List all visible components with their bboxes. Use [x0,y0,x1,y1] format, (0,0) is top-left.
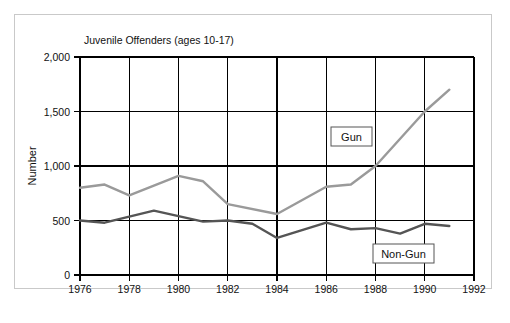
y-tick-label-1500: 1,500 [44,106,70,118]
x-tick-label-1990: 1990 [413,283,437,295]
x-tick-label-1982: 1982 [216,283,240,295]
line-chart: Juvenile Offenders (ages 10-17) Number [0,0,510,323]
x-tick-label-1980: 1980 [167,283,191,295]
y-tick-label-2000: 2,000 [44,51,70,63]
y-tick-label-500: 500 [52,215,70,227]
x-tick-label-1992: 1992 [462,283,486,295]
x-tick-label-1976: 1976 [68,283,92,295]
legend-gun[interactable]: Gun [331,127,372,146]
figure-root: Juvenile Offenders (ages 10-17) Number [0,0,510,323]
y-tick-label-1000: 1,000 [44,160,70,172]
x-tick-label-1986: 1986 [315,283,339,295]
y-tick-marks [74,57,80,275]
legend-non-gun-label: Non-Gun [381,248,426,260]
chart-title: Juvenile Offenders (ages 10-17) [84,34,234,46]
x-tick-label-1984: 1984 [265,283,289,295]
y-tick-label-0: 0 [64,269,70,281]
x-tick-label-1988: 1988 [364,283,388,295]
y-axis-title: Number [26,146,38,185]
legend-non-gun[interactable]: Non-Gun [373,244,434,263]
y-tick-labels: 2,000 1,500 1,000 500 0 [44,51,70,281]
x-tick-marks [80,275,474,281]
legend-gun-label: Gun [341,131,362,143]
x-tick-labels: 1976 1978 1980 1982 1984 1986 1988 1990 … [68,283,486,295]
x-tick-label-1978: 1978 [118,283,142,295]
